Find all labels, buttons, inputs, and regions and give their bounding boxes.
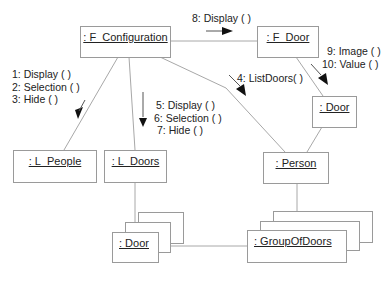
arrow-icon xyxy=(222,27,233,35)
messages-to-f-door: 8: Display ( ) xyxy=(192,12,251,25)
object-label: : GroupOfDoors xyxy=(254,235,346,247)
object-label: : Door xyxy=(313,101,356,113)
message-6: 6: Selection ( ) xyxy=(154,112,222,125)
object-label: : Person xyxy=(264,157,328,169)
message-9: 9: Image ( ) xyxy=(322,45,381,58)
object-group-of-doors[interactable]: : GroupOfDoors xyxy=(247,230,347,263)
message-7: 7: Hide ( ) xyxy=(154,124,222,137)
object-label: : L_People xyxy=(14,155,96,167)
link-config-ldoors xyxy=(129,57,135,150)
message-3: 3: Hide ( ) xyxy=(12,93,80,106)
arrow-icon xyxy=(236,84,246,96)
message-5: 5: Display ( ) xyxy=(154,99,222,112)
object-label: : F_Configuration xyxy=(81,31,170,43)
message-4: 4: ListDoors( ) xyxy=(237,72,303,85)
arrow-icon xyxy=(75,107,83,119)
messages-to-door: 9: Image ( ) 10: Value ( ) xyxy=(322,45,381,70)
object-door[interactable]: : Door xyxy=(312,96,357,128)
object-label: : F_Door xyxy=(258,31,318,43)
object-person[interactable]: : Person xyxy=(263,152,329,184)
message-8: 8: Display ( ) xyxy=(192,12,251,25)
object-l-people[interactable]: : L_People xyxy=(13,150,97,183)
arrow-icon xyxy=(139,118,147,127)
object-door-multi[interactable]: : Door xyxy=(112,232,159,263)
messages-to-person: 4: ListDoors( ) xyxy=(237,72,303,85)
object-f-door[interactable]: : F_Door xyxy=(257,26,319,58)
link-door-person xyxy=(307,127,322,152)
message-10: 10: Value ( ) xyxy=(322,58,381,71)
message-1: 1: Display ( ) xyxy=(12,68,80,81)
messages-to-l-people: 1: Display ( ) 2: Selection ( ) 3: Hide … xyxy=(12,68,80,106)
arrow-icon xyxy=(318,73,328,85)
object-label: : L_Doors xyxy=(105,155,166,167)
messages-to-l-doors: 5: Display ( ) 6: Selection ( ) 7: Hide … xyxy=(154,99,222,137)
object-label: : Door xyxy=(119,237,158,249)
object-f-configuration[interactable]: : F_Configuration xyxy=(80,26,171,58)
message-2: 2: Selection ( ) xyxy=(12,81,80,94)
object-l-doors[interactable]: : L_Doors xyxy=(104,150,167,183)
